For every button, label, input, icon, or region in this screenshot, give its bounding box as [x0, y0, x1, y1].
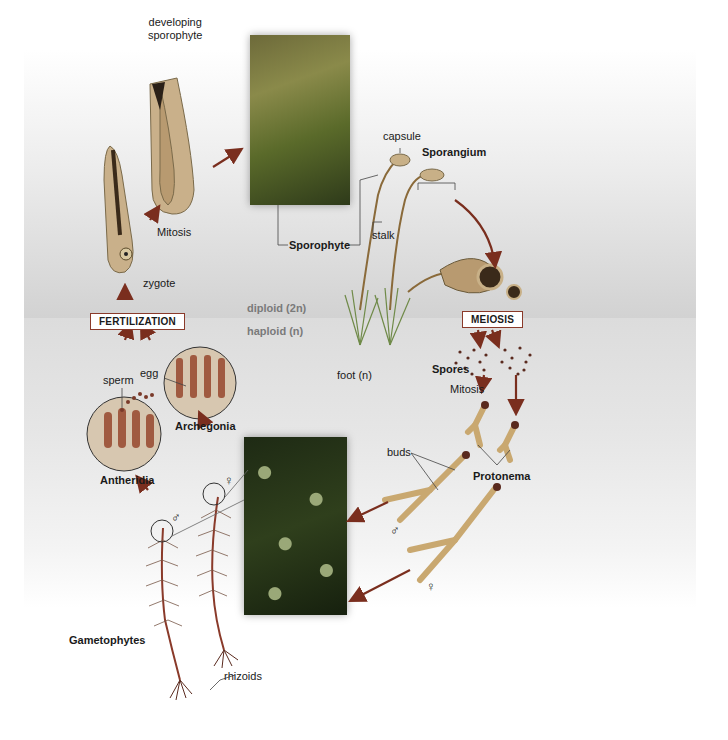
moss-life-cycle-diagram: developing sporophyte Mitosis zygote Spo…	[0, 0, 728, 740]
male-symbol-protonema: ♂	[390, 524, 400, 537]
antheridia-label: Antheridia	[100, 474, 154, 487]
egg-label: egg	[140, 367, 158, 380]
archegonia-label: Archegonia	[175, 420, 236, 433]
diploid-label: diploid (2n)	[247, 302, 306, 314]
zygote-label: zygote	[143, 277, 175, 290]
sperm-label: sperm	[103, 374, 134, 387]
antheridia-illustration	[87, 397, 161, 471]
protonema-label: Protonema	[473, 470, 530, 483]
foot-leaves	[345, 288, 410, 345]
fertilization-box: FERTILIZATION	[90, 313, 185, 330]
zygote-archegonium-illustration	[104, 146, 133, 273]
meiosis-box: MEIOSIS	[462, 311, 523, 328]
archegonia-illustration	[164, 347, 236, 419]
buds-label: buds	[387, 446, 411, 459]
spores-label: Spores	[432, 363, 469, 376]
archegonium-highlight-circle	[203, 483, 225, 505]
mitosis-label-lower: Mitosis	[450, 383, 484, 396]
protonema-illustration	[385, 405, 515, 580]
sporangium-label: Sporangium	[422, 146, 486, 159]
female-symbol-protonema: ♀	[426, 580, 436, 593]
developing-sporophyte-label: developing sporophyte	[148, 16, 202, 42]
male-symbol-plant: ♂	[171, 511, 181, 524]
sporophyte-label: Sporophyte	[289, 239, 350, 252]
stalk-label: stalk	[372, 229, 395, 242]
capsule-shape	[390, 154, 410, 166]
developing-sporophyte-illustration	[150, 78, 194, 214]
female-symbol-plant: ♀	[224, 474, 234, 487]
haploid-label: haploid (n)	[247, 325, 303, 337]
mitosis-label-upper: Mitosis	[157, 226, 191, 239]
sporangium-shape	[420, 169, 444, 181]
foot-label: foot (n)	[337, 369, 372, 382]
gametophytes-label: Gametophytes	[69, 634, 145, 647]
rhizoids-label: rhizoids	[224, 670, 262, 683]
capsule-label: capsule	[383, 130, 421, 143]
